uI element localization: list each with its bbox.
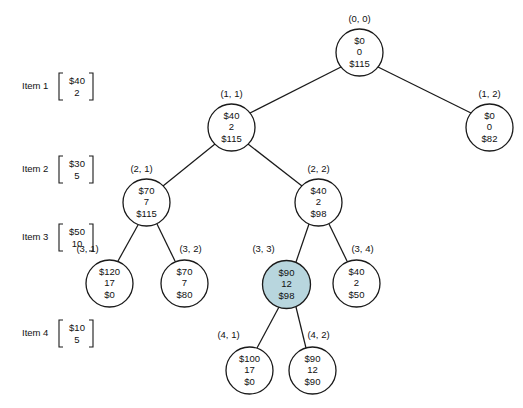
tree-edge-n33-n42 xyxy=(296,307,306,348)
node-profit: $100 xyxy=(239,353,260,364)
node-profit: $40 xyxy=(224,110,240,121)
item-value: $30 xyxy=(69,158,85,169)
item-label-group: Item 4$105 xyxy=(22,320,93,347)
item-weight: 5 xyxy=(74,334,79,345)
tree-node-00[interactable]: (0, 0)$00$115 xyxy=(336,13,383,76)
item-value: $10 xyxy=(69,322,85,333)
node-bound: $82 xyxy=(482,133,498,144)
node-coordinate-label: (3, 1) xyxy=(76,243,98,254)
node-weight: 12 xyxy=(281,278,292,289)
matrix-left-bracket xyxy=(59,320,63,347)
tree-node-33[interactable]: (3, 3)$9012$98 xyxy=(252,243,310,309)
node-bound: $115 xyxy=(221,133,241,144)
item-name: Item 2 xyxy=(22,163,48,174)
tree-node-21[interactable]: (2, 1)$707$115 xyxy=(123,163,170,226)
node-bound: $50 xyxy=(349,289,365,300)
tree-edge-n22-n33 xyxy=(296,224,309,262)
matrix-left-bracket xyxy=(59,156,63,183)
node-coordinate-label: (1, 1) xyxy=(220,88,242,99)
tree-edge-n22-n34 xyxy=(329,224,347,261)
tree-edge-n21-n32 xyxy=(157,224,175,261)
node-coordinate-label: (3, 3) xyxy=(252,243,274,254)
matrix-right-bracket xyxy=(89,73,93,100)
node-profit: $90 xyxy=(279,267,295,278)
tree-node-12[interactable]: (1, 2)$00$82 xyxy=(466,88,513,151)
node-bound: $0 xyxy=(244,376,255,387)
tree-edge-n11-n21 xyxy=(163,144,215,186)
items-layer: Item 1$402Item 2$305Item 3$5010Item 4$10… xyxy=(22,73,93,347)
node-bound: $90 xyxy=(305,376,321,387)
tree-node-41[interactable]: (4, 1)$10017$0 xyxy=(217,329,273,394)
node-coordinate-label: (2, 1) xyxy=(130,163,152,174)
node-profit: $40 xyxy=(311,185,327,196)
node-bound: $115 xyxy=(349,58,369,69)
node-profit: $40 xyxy=(349,266,365,277)
node-weight: 12 xyxy=(307,364,318,375)
item-name: Item 4 xyxy=(22,327,48,338)
node-bound: $115 xyxy=(136,208,156,219)
node-coordinate-label: (2, 2) xyxy=(307,163,329,174)
matrix-left-bracket xyxy=(59,73,63,100)
tree-node-42[interactable]: (4, 2)$9012$90 xyxy=(289,329,336,394)
item-label-group: Item 1$402 xyxy=(22,73,93,100)
node-profit: $90 xyxy=(305,353,321,364)
node-weight: 0 xyxy=(487,121,492,132)
tree-edge-n33-n41 xyxy=(257,307,279,348)
matrix-right-bracket xyxy=(89,156,93,183)
node-profit: $70 xyxy=(139,185,155,196)
tree-edge-n11-n22 xyxy=(248,144,302,186)
node-weight: 17 xyxy=(104,277,115,288)
node-profit: $70 xyxy=(177,266,193,277)
matrix-left-bracket xyxy=(59,224,63,251)
node-weight: 17 xyxy=(244,364,255,375)
node-coordinate-label: (1, 2) xyxy=(478,88,500,99)
matrix-right-bracket xyxy=(89,320,93,347)
node-weight: 2 xyxy=(229,121,234,132)
item-value: $50 xyxy=(69,226,85,237)
node-weight: 7 xyxy=(144,196,149,207)
nodes-layer: (0, 0)$00$115(1, 1)$402$115(1, 2)$00$82(… xyxy=(76,13,513,394)
tree-node-11[interactable]: (1, 1)$402$115 xyxy=(208,88,255,151)
node-bound: $98 xyxy=(279,290,295,301)
node-weight: 7 xyxy=(182,277,187,288)
node-coordinate-label: (3, 4) xyxy=(351,243,373,254)
node-coordinate-label: (4, 1) xyxy=(217,329,239,340)
node-weight: 0 xyxy=(357,46,362,57)
node-bound: $98 xyxy=(311,208,327,219)
tree-node-22[interactable]: (2, 2)$402$98 xyxy=(295,163,342,226)
node-bound: $0 xyxy=(104,289,115,300)
node-weight: 2 xyxy=(354,277,359,288)
node-weight: 2 xyxy=(316,196,321,207)
search-tree-diagram: Item 1$402Item 2$305Item 3$5010Item 4$10… xyxy=(0,0,523,408)
node-profit: $0 xyxy=(484,110,495,121)
node-coordinate-label: (4, 2) xyxy=(307,329,329,340)
tree-edge-n00-n11 xyxy=(250,67,341,113)
node-coordinate-label: (0, 0) xyxy=(348,13,370,24)
item-weight: 2 xyxy=(74,87,79,98)
item-label-group: Item 2$305 xyxy=(22,156,93,183)
item-weight: 5 xyxy=(74,170,79,181)
tree-edge-n00-n12 xyxy=(378,67,471,113)
tree-edge-n21-n31 xyxy=(118,225,138,261)
tree-node-34[interactable]: (3, 4)$402$50 xyxy=(333,243,380,307)
node-bound: $80 xyxy=(177,289,193,300)
tree-node-31[interactable]: (3, 1)$12017$0 xyxy=(76,243,133,307)
node-coordinate-label: (3, 2) xyxy=(179,243,201,254)
item-name: Item 3 xyxy=(22,231,48,242)
node-profit: $0 xyxy=(354,35,365,46)
node-profit: $120 xyxy=(99,266,120,277)
item-value: $40 xyxy=(69,75,85,86)
item-name: Item 1 xyxy=(22,80,48,91)
tree-node-32[interactable]: (3, 2)$707$80 xyxy=(161,243,208,307)
